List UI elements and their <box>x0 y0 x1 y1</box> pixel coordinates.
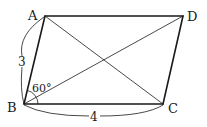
parallelogram-diagram: A D B C 3 4 60° <box>0 0 207 127</box>
length-bc-brace-right <box>100 105 163 116</box>
vertex-label-b: B <box>7 100 17 115</box>
vertex-label-d: D <box>187 9 197 24</box>
side-dc <box>163 16 183 104</box>
length-bc-label: 4 <box>90 110 98 124</box>
length-ab-brace-lower <box>21 67 24 104</box>
vertex-label-a: A <box>27 8 38 23</box>
vertex-label-c: C <box>168 101 178 116</box>
length-bc-brace-left <box>24 105 89 116</box>
angle-b-label: 60° <box>32 82 52 95</box>
length-ab-label: 3 <box>18 55 26 69</box>
